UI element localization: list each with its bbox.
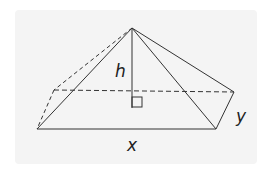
label-x: x: [126, 135, 138, 155]
edge-right-base: [216, 92, 234, 129]
pyramid-diagram: h x y: [0, 0, 271, 176]
right-angle-marker: [132, 97, 142, 107]
edge-apex-back-right: [132, 28, 234, 92]
hidden-edge-base-left: [37, 90, 54, 129]
label-y: y: [235, 106, 247, 126]
edge-apex-front-right: [132, 28, 216, 129]
label-h: h: [115, 61, 126, 81]
hidden-edge-base-back: [54, 90, 234, 92]
